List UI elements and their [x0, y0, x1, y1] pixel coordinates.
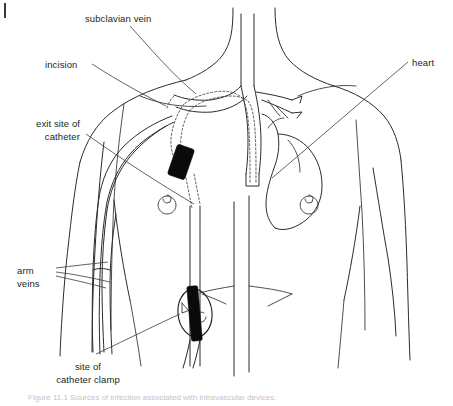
left-nipple [158, 195, 176, 214]
figure-caption-band: Figure 11.1 Sources of infection associa… [0, 392, 453, 406]
right-arm-outer-contour [401, 160, 410, 360]
right-shoulder-contour [334, 86, 401, 160]
left-shoulder-contour [80, 80, 186, 162]
catheter-group [167, 91, 256, 368]
right-arm-inner-contour [373, 168, 396, 336]
heart-outline [262, 114, 279, 228]
right-nipple [300, 195, 318, 214]
neck-right-contour [275, 8, 334, 86]
right-branch-tip-2 [292, 112, 302, 118]
anatomical-diagram: subclavian vein incision exit site of ca… [0, 0, 453, 406]
svc-terminus [246, 174, 259, 186]
label-subclavian-vein: subclavian vein [85, 13, 151, 24]
vessel-group [92, 14, 322, 354]
right-costal-margin-2 [268, 294, 292, 306]
external-catheter-tail-right [193, 340, 200, 368]
catheter-clamp-device [176, 286, 215, 342]
label-catheter-clamp-line1: site of [75, 361, 101, 372]
catheter-incision-segment [167, 96, 174, 108]
leader-incision [92, 64, 166, 106]
right-flank-line [338, 300, 344, 368]
catheter-exit-segment-a [186, 178, 192, 208]
left-axilla-fold [111, 104, 124, 330]
heart-outline-right [275, 134, 322, 230]
page-rule-mark [4, 3, 6, 18]
left-arm-outer-contour [60, 162, 80, 356]
catheter-intravascular-a [184, 91, 250, 182]
external-catheter-tail-left [183, 340, 190, 368]
right-branch-tip [292, 96, 302, 103]
leader-arm-veins-3 [56, 276, 106, 288]
right-subclavian-branch [256, 92, 292, 100]
leader-subclavian-vein [130, 26, 196, 94]
left-costal-margin [200, 286, 234, 293]
right-chest-lateral [344, 206, 360, 300]
left-chest-lateral [114, 200, 130, 300]
arm-vein-anastomosis [93, 269, 110, 271]
leader-line-group [56, 26, 408, 354]
label-heart: heart [412, 57, 434, 68]
label-exit-site-line1: exit site of [36, 118, 80, 129]
right-costal-margin [249, 286, 292, 294]
figure-container: subclavian vein incision exit site of ca… [0, 0, 453, 406]
label-arm-veins-line1: arm [17, 265, 34, 276]
figure-caption: Figure 11.1 Sources of infection associa… [28, 393, 276, 402]
label-incision: incision [45, 59, 77, 70]
body-outline-group [60, 8, 410, 376]
catheter-exit-segment-b [194, 174, 200, 204]
label-catheter-clamp-line2: catheter clamp [56, 374, 120, 385]
label-text-group: subclavian vein incision exit site of ca… [17, 13, 434, 385]
neck-left-contour [186, 8, 233, 80]
label-exit-site-line2: catheter [45, 131, 80, 142]
label-arm-veins-line2: veins [17, 278, 40, 289]
